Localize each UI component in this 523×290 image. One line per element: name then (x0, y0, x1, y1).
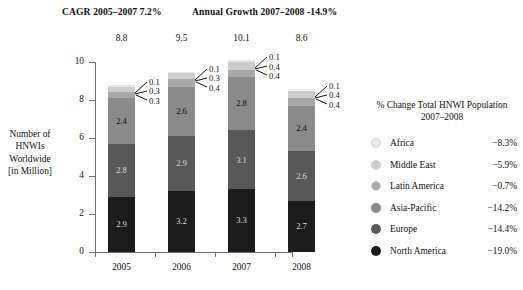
bar-segment-north-america: 3.3 (228, 189, 255, 252)
legend-item-value: −8.3% (471, 138, 517, 148)
legend-swatch-icon (371, 224, 381, 234)
bar-segment-label: 2.8 (236, 99, 247, 108)
bar-segment-label: 3.3 (236, 216, 247, 225)
x-axis-tick-label: 2006 (160, 262, 204, 272)
bar-2006: 3.22.92.6 (168, 62, 195, 252)
y-axis-tick-label: 8 (60, 95, 84, 104)
bar-segment-north-america: 3.2 (168, 191, 195, 252)
legend-item-label: North America (390, 246, 446, 256)
legend-item-asia-pacific[interactable]: Asia-Pacific−14.2% (363, 197, 521, 219)
legend-title-line2: 2007–2008 (363, 111, 521, 123)
legend-rows: Africa−8.3%Middle East−5.9%Latin America… (363, 132, 521, 261)
bar-total-label: 10.1 (222, 33, 262, 43)
bar-segment-latin-america (108, 92, 135, 98)
bar-segment-latin-america (168, 79, 195, 87)
legend-item-middle-east[interactable]: Middle East−5.9% (363, 154, 521, 176)
callout-leader-lines (134, 81, 150, 111)
legend-swatch-icon (371, 160, 381, 170)
bar-segment-label: 2.6 (296, 172, 307, 181)
bar-segment-europe: 2.8 (108, 144, 135, 197)
bar-segment-label: 2.4 (116, 117, 127, 126)
y-axis-tick-label: 0 (60, 247, 84, 256)
bar-segment-middle-east (108, 87, 135, 93)
bar-segment-europe: 2.6 (288, 151, 315, 200)
bar-segment-label: 3.1 (236, 156, 247, 165)
bar-segment-label: 2.4 (296, 124, 307, 133)
legend-swatch-icon (371, 203, 381, 213)
legend-title: % Change Total HNWI Population 2007–2008 (363, 99, 521, 123)
bar-segment-asia-pacific: 2.6 (168, 87, 195, 136)
legend-item-label: Latin America (390, 181, 444, 191)
y-axis-tick (89, 138, 95, 139)
x-axis-tick (275, 252, 276, 257)
callout-group-2008: 0.10.40.4 (329, 82, 340, 111)
bar-total-label: 8.8 (102, 33, 142, 43)
bar-segment-label: 3.2 (176, 217, 187, 226)
bar-segment-label: 2.9 (176, 159, 187, 168)
callout-group-2006: 0.10.30.4 (209, 65, 220, 94)
bar-segment-middle-east (168, 73, 195, 79)
bar-segment-label: 2.9 (116, 220, 127, 229)
callout-group-2005: 0.10.30.3 (149, 78, 160, 107)
bar-segment-label: 2.6 (176, 107, 187, 116)
bar-total-label: 9.5 (162, 33, 202, 43)
callout-label: 0.3 (149, 97, 160, 107)
bar-segment-asia-pacific: 2.4 (108, 98, 135, 144)
legend-item-latin-america[interactable]: Latin America−0.7% (363, 175, 521, 197)
legend-item-label: Africa (390, 138, 414, 148)
y-axis-tick-label: 4 (60, 171, 84, 180)
legend-swatch-icon (371, 181, 381, 191)
legend-item-europe[interactable]: Europe−14.4% (363, 218, 521, 240)
legend-item-label: Middle East (390, 160, 436, 170)
legend-item-value: −0.7% (471, 181, 517, 191)
bar-segment-middle-east (228, 62, 255, 70)
bar-segment-africa (108, 85, 135, 87)
callout-leader-lines (254, 56, 270, 86)
bar-segment-africa (168, 72, 195, 74)
bar-segment-europe: 2.9 (168, 136, 195, 191)
y-axis-tick-label: 2 (60, 209, 84, 218)
bar-2007: 3.33.12.8 (228, 62, 255, 252)
x-axis-line (95, 252, 292, 253)
bar-segment-africa (228, 60, 255, 62)
bar-segment-north-america: 2.9 (108, 197, 135, 252)
legend-item-value: −14.4% (471, 224, 517, 234)
x-axis-tick-label: 2007 (220, 262, 264, 272)
bar-segment-europe: 3.1 (228, 130, 255, 189)
x-axis-tick (95, 252, 96, 257)
bar-segment-asia-pacific: 2.4 (288, 106, 315, 152)
legend-item-label: Asia-Pacific (390, 203, 436, 213)
legend-title-line1: % Change Total HNWI Population (363, 99, 521, 111)
legend-item-africa[interactable]: Africa−8.3% (363, 132, 521, 154)
legend-swatch-icon (371, 246, 381, 256)
y-axis-line (95, 62, 96, 253)
y-axis-tick (89, 214, 95, 215)
y-axis-tick (89, 176, 95, 177)
bar-segment-label: 2.8 (116, 166, 127, 175)
bar-2008: 2.72.62.4 (288, 62, 315, 252)
x-axis-tick (215, 252, 216, 257)
bar-segment-latin-america (288, 98, 315, 106)
callout-label: 0.4 (209, 84, 220, 94)
y-axis-tick (89, 100, 95, 101)
x-axis-tick-label: 2005 (100, 262, 144, 272)
bar-segment-africa (288, 89, 315, 91)
bar-segment-asia-pacific: 2.8 (228, 77, 255, 130)
legend: % Change Total HNWI Population 2007–2008… (363, 99, 521, 261)
legend-item-value: −5.9% (471, 160, 517, 170)
callout-leader-lines (194, 68, 210, 98)
legend-swatch-icon (371, 138, 381, 148)
bar-segment-label: 2.7 (296, 222, 307, 231)
bar-segment-north-america: 2.7 (288, 201, 315, 252)
y-axis-tick-label: 6 (60, 133, 84, 142)
legend-item-value: −19.0% (471, 246, 517, 256)
chart-figure: CAGR 2005–2007 7.2% Annual Growth 2007–2… (0, 0, 523, 290)
bar-segment-middle-east (288, 91, 315, 99)
callout-label: 0.4 (329, 101, 340, 111)
legend-item-north-america[interactable]: North America−19.0% (363, 240, 521, 262)
y-axis-tick-label: 10 (60, 57, 84, 66)
legend-item-value: −14.2% (471, 203, 517, 213)
x-axis-tick-label: 2008 (280, 262, 324, 272)
bar-total-label: 8.6 (282, 33, 322, 43)
x-axis-tick (155, 252, 156, 257)
